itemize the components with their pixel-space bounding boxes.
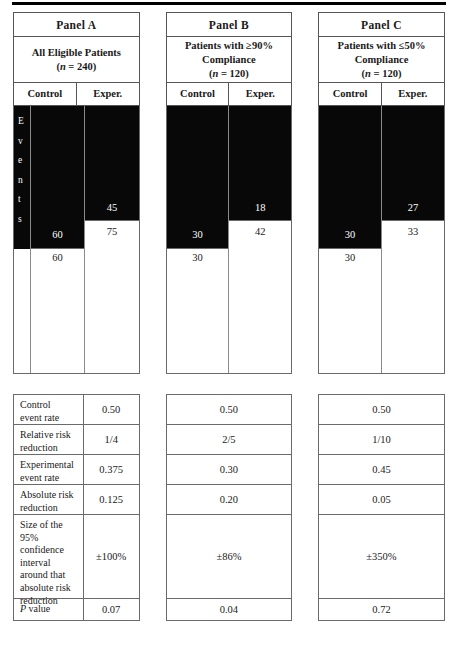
table-row: 0.20 [167,485,292,515]
panel-c-exper-white-segment: 33 [382,220,444,373]
panel-a-exper-bar: 45 75 [85,106,138,373]
panel-c-control-white-value: 30 [319,252,381,263]
panel-a-control-black-value: 60 [31,229,84,240]
panel-c-stat-value-1: 1/10 [319,425,444,454]
panel-c-stat-value-4: ±350% [319,515,444,598]
table-row: P value 0.07 [14,599,139,621]
table-row: 2/5 [167,425,292,455]
panel-b-exper-white-segment: 42 [229,220,291,373]
panel-c-col-control: Control [319,83,382,105]
panel-a-stat-value-3: 0.125 [84,485,139,514]
panel-a-stat-value-0: 0.50 [84,395,139,424]
panel-a-header: Panel A All Eligible Patients (n = 240) … [13,12,140,106]
panel-a: Panel A All Eligible Patients (n = 240) … [0,12,153,621]
table-row: Relative riskreduction 1/4 [14,425,139,455]
table-row: 0.04 [167,599,292,621]
panel-c-column-headers: Control Exper. [319,83,444,105]
panels-container: Panel A All Eligible Patients (n = 240) … [0,12,458,621]
panel-a-stat-label-5: P value [14,599,84,620]
table-row: Controlevent rate 0.50 [14,395,139,425]
table-row: ±86% [167,515,292,599]
panel-c-subtitle-line1: Patients with ≤50% [322,39,441,53]
table-row: 0.05 [319,485,444,515]
panel-a-subtitle: All Eligible Patients (n = 240) [14,37,139,83]
panel-b-header: Panel B Patients with ≥90% Compliance (n… [166,12,293,106]
panel-c-stat-value-5: 0.72 [319,599,444,620]
panel-a-column-headers: Control Exper. [14,83,139,105]
panel-a-exper-black-value: 45 [85,202,138,213]
panel-b-subtitle: Patients with ≥90% Compliance (n = 120) [167,37,292,83]
panel-b-stat-value-4: ±86% [167,515,292,598]
panel-c-col-exper: Exper. [382,83,444,105]
panel-b-control-white-segment: 30 [167,248,229,373]
panel-a-exper-white-value: 75 [85,226,138,237]
panel-a-events-axis-label: Events [18,112,24,229]
panel-c: Panel C Patients with ≤50% Compliance (n… [305,12,458,621]
panel-b-title: Panel B [167,13,292,37]
table-row: 0.72 [319,599,444,621]
panel-a-chart: Events 60 60 45 75 [13,106,140,374]
panel-c-control-black-value: 30 [319,229,381,240]
table-row: Experimentalevent rate 0.375 [14,455,139,485]
panel-c-subtitle: Patients with ≤50% Compliance (n = 120) [319,37,444,83]
panel-a-stat-label-2: Experimentalevent rate [14,455,84,484]
panel-a-control-bar: 60 60 [31,106,85,373]
panel-c-stat-value-3: 0.05 [319,485,444,514]
panel-b-stat-value-3: 0.20 [167,485,292,514]
panel-c-sample-size: (n = 120) [322,67,441,81]
top-horizontal-rule [12,2,446,5]
panel-b-control-white-value: 30 [167,252,229,263]
panel-c-control-bar: 30 30 [318,106,382,373]
panel-a-stat-label-0: Controlevent rate [14,395,84,424]
panel-a-control-white-value: 60 [31,252,84,263]
panel-b-chart: 30 30 18 42 [166,106,293,374]
panel-a-axis: Events [14,106,31,373]
panel-a-control-white-segment: 60 [31,248,84,373]
table-row: 0.30 [167,455,292,485]
panel-b-subtitle-line2: Compliance [170,53,289,67]
panel-b-stat-value-0: 0.50 [167,395,292,424]
table-row: 0.50 [319,395,444,425]
panel-b-column-headers: Control Exper. [167,83,292,105]
panel-a-stat-label-1: Relative riskreduction [14,425,84,454]
panel-c-exper-bar: 27 33 [382,106,445,373]
panel-b-stat-value-2: 0.30 [167,455,292,484]
panel-a-sample-size: (n = 240) [17,60,136,74]
panel-a-stat-value-5: 0.07 [84,599,139,620]
table-row: 1/10 [319,425,444,455]
panel-a-col-exper: Exper. [77,83,139,105]
panel-b-col-control: Control [167,83,230,105]
panel-a-stat-label-4: Size of the 95% confidence interval arou… [14,515,84,598]
panel-b-stats-table: 0.50 2/5 0.30 0.20 ±86% 0.04 [166,394,293,621]
panel-c-chart: 30 30 27 33 [318,106,445,374]
panel-a-exper-white-segment: 75 [85,220,138,373]
panel-b-stat-value-1: 2/5 [167,425,292,454]
panel-c-stats-table: 0.50 1/10 0.45 0.05 ±350% 0.72 [318,394,445,621]
table-row: ±350% [319,515,444,599]
panel-b-exper-black-value: 18 [229,202,291,213]
panel-c-exper-white-value: 33 [382,226,444,237]
panel-b: Panel B Patients with ≥90% Compliance (n… [153,12,306,621]
panel-b-col-exper: Exper. [229,83,291,105]
panel-a-col-control: Control [14,83,77,105]
panel-b-sample-size: (n = 120) [170,67,289,81]
panel-b-exper-white-value: 42 [229,226,291,237]
table-row: Size of the 95% confidence interval arou… [14,515,139,599]
table-row: Absolute riskreduction 0.125 [14,485,139,515]
table-row: 0.45 [319,455,444,485]
panel-c-header: Panel C Patients with ≤50% Compliance (n… [318,12,445,106]
panel-a-stat-label-3: Absolute riskreduction [14,485,84,514]
panel-c-exper-black-value: 27 [382,202,444,213]
panel-c-control-white-segment: 30 [319,248,381,373]
panel-b-subtitle-line1: Patients with ≥90% [170,39,289,53]
panel-c-title: Panel C [319,13,444,37]
panel-a-title: Panel A [14,13,139,37]
panel-b-control-black-value: 30 [167,229,229,240]
panel-b-stat-value-5: 0.04 [167,599,292,620]
panel-a-subtitle-line1: All Eligible Patients [17,46,136,60]
panel-c-stat-value-0: 0.50 [319,395,444,424]
panel-a-stat-value-4: ±100% [84,515,139,598]
panel-b-exper-bar: 18 42 [229,106,292,373]
panel-c-subtitle-line2: Compliance [322,53,441,67]
panel-a-stats-table: Controlevent rate 0.50 Relative riskredu… [13,394,140,621]
